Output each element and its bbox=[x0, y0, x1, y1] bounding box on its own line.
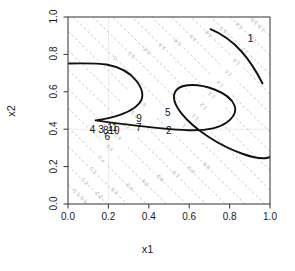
point-label: 11 bbox=[107, 123, 117, 133]
point-label: 4 bbox=[90, 125, 96, 135]
contour-plot-figure: 0.10.10.20.20.30.30.40.40.50.50.60.60.70… bbox=[0, 0, 295, 271]
point-label: 5 bbox=[165, 108, 171, 118]
point-label: 1 bbox=[248, 34, 254, 44]
y-tick-label: 0.4 bbox=[48, 114, 59, 144]
x-tick-label: 1.0 bbox=[255, 211, 285, 222]
x-axis-ticks bbox=[68, 204, 270, 209]
y-tick-label: 1.0 bbox=[48, 2, 59, 32]
y-axis-title: x2 bbox=[5, 91, 17, 131]
x-tick-label: 0.6 bbox=[174, 211, 204, 222]
y-tick-label: 0.6 bbox=[48, 76, 59, 106]
y-tick-label: 0.0 bbox=[48, 189, 59, 219]
y-tick-label: 0.2 bbox=[48, 151, 59, 181]
point-label: 9 bbox=[136, 114, 142, 124]
point-label: 2 bbox=[166, 126, 172, 136]
y-tick-label: 0.8 bbox=[48, 39, 59, 69]
x-tick-label: 0.2 bbox=[93, 211, 123, 222]
x-tick-label: 0.8 bbox=[215, 211, 245, 222]
x-tick-label: 0.4 bbox=[134, 211, 164, 222]
y-axis-ticks bbox=[64, 17, 69, 204]
x-axis-title: x1 bbox=[0, 243, 295, 255]
